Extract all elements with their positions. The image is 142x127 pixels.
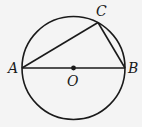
circle-diagram: A B C O [0,0,142,127]
label-o: O [67,73,79,89]
label-a: A [6,60,18,76]
label-c: C [96,3,107,19]
center-point-o [71,66,76,71]
chord-cb [98,23,125,69]
chord-ac [22,23,98,69]
label-b: B [127,60,138,76]
